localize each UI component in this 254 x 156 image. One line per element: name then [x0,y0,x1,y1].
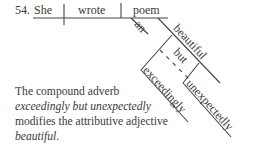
caption-compound-adverb: exceedingly but unexpectedly [15,100,151,113]
caption-line-4: beautiful. [15,129,245,144]
caption-line-2: exceedingly but unexpectedly [15,99,245,114]
caption-line-1: The compound adverb [15,84,245,99]
subject-word: She [34,4,52,16]
connector-line-1 [141,35,172,70]
object-word: poem [133,4,160,16]
caption: The compound adverb exceedingly but unex… [15,84,245,144]
caption-line-3: modifies the attributive adjective [15,114,245,129]
caption-period: . [56,130,59,143]
verb-word: wrote [78,4,105,16]
caption-adjective: beautiful [15,130,56,143]
sentence-number: 54. [15,4,30,16]
